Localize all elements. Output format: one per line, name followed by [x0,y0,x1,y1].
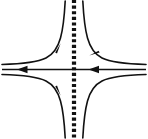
phase-portrait-figure: Saddle point phase portrait Hyperbolic t… [0,0,148,139]
phase-portrait-canvas [0,0,148,139]
